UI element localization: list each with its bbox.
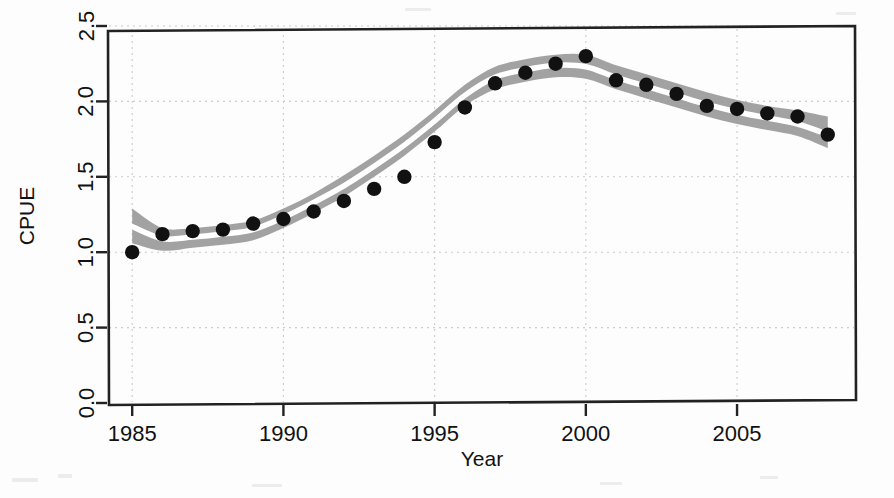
y-axis-title: CPUE bbox=[15, 187, 38, 245]
data-point bbox=[609, 73, 623, 87]
data-point bbox=[216, 222, 230, 236]
data-point bbox=[337, 194, 351, 208]
x-axis-tick-labels: 19851990199520002005 bbox=[108, 421, 762, 446]
cpue-year-chart: 19851990199520002005 0.00.51.01.52.02.5 … bbox=[0, 0, 894, 498]
scan-speck bbox=[12, 478, 38, 482]
y-axis-ticks bbox=[96, 26, 107, 403]
x-tick-label: 2000 bbox=[561, 421, 610, 446]
y-axis-tick-labels: 0.00.51.01.52.02.5 bbox=[74, 11, 99, 419]
data-point bbox=[730, 102, 744, 116]
data-point bbox=[488, 76, 502, 90]
x-tick-label: 1995 bbox=[410, 421, 459, 446]
data-point bbox=[579, 49, 593, 63]
data-point bbox=[427, 135, 441, 149]
data-point bbox=[185, 224, 199, 238]
figure-panel: 19851990199520002005 0.00.51.01.52.02.5 … bbox=[0, 0, 894, 498]
data-point bbox=[760, 106, 774, 120]
data-point bbox=[548, 57, 562, 71]
data-point bbox=[155, 227, 169, 241]
data-point bbox=[790, 109, 804, 123]
y-tick-label: 0.5 bbox=[74, 312, 99, 343]
data-point bbox=[700, 99, 714, 113]
data-point bbox=[669, 87, 683, 101]
y-tick-label: 2.5 bbox=[74, 11, 99, 42]
scan-speck bbox=[405, 8, 431, 11]
data-point bbox=[518, 66, 532, 80]
scan-speck bbox=[760, 476, 778, 479]
scan-speck bbox=[58, 474, 72, 478]
scan-speck bbox=[836, 12, 856, 15]
x-tick-label: 2005 bbox=[713, 421, 762, 446]
y-tick-label: 1.0 bbox=[74, 237, 99, 268]
data-point bbox=[639, 78, 653, 92]
y-tick-label: 0.0 bbox=[74, 388, 99, 419]
y-tick-label: 2.0 bbox=[74, 86, 99, 117]
scan-speck bbox=[252, 484, 282, 487]
data-point bbox=[306, 204, 320, 218]
x-tick-label: 1985 bbox=[108, 421, 157, 446]
data-point bbox=[367, 182, 381, 196]
data-point bbox=[397, 170, 411, 184]
x-axis-title: Year bbox=[461, 447, 503, 470]
data-point bbox=[276, 212, 290, 226]
y-tick-label: 1.5 bbox=[74, 162, 99, 193]
data-point bbox=[458, 100, 472, 114]
data-point bbox=[246, 216, 260, 230]
scan-speck bbox=[600, 482, 622, 485]
x-axis-ticks bbox=[132, 404, 737, 416]
data-point bbox=[821, 127, 835, 141]
data-point bbox=[125, 245, 139, 259]
x-tick-label: 1990 bbox=[259, 421, 308, 446]
